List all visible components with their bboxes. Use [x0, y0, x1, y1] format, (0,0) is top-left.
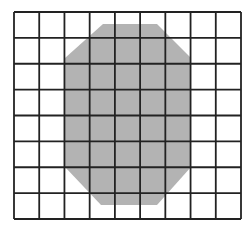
- shaded-octagon: [65, 24, 191, 205]
- grid-diagram: [0, 0, 249, 226]
